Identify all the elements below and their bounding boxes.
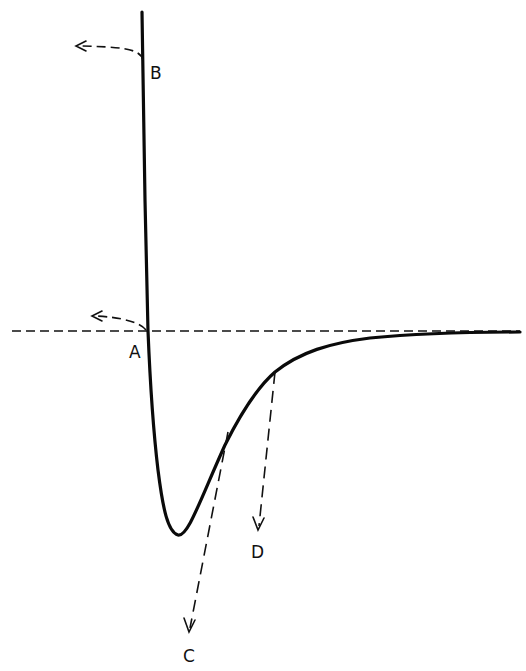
label-b: B — [150, 63, 162, 83]
arrow-d — [259, 372, 275, 526]
arrow-a — [95, 316, 146, 330]
arrow-b — [80, 46, 143, 60]
label-d: D — [251, 542, 264, 562]
arrow-c — [190, 432, 228, 628]
potential-energy-curve — [142, 12, 520, 535]
potential-energy-diagram: B A C D — [0, 0, 526, 671]
label-a: A — [129, 342, 141, 362]
arrow-c-head — [184, 618, 195, 632]
label-c: C — [183, 646, 195, 666]
